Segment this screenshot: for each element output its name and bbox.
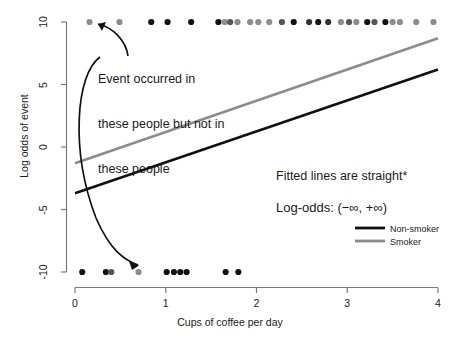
data-point (184, 269, 190, 275)
data-point (116, 19, 122, 25)
y-tick-neg5: -5 (37, 193, 49, 227)
annotation-line-2: these people but not in (98, 117, 225, 132)
data-point (108, 269, 114, 275)
data-point (177, 269, 183, 275)
data-point (279, 19, 285, 25)
data-point (215, 19, 221, 25)
y-tick-5: 5 (37, 68, 49, 102)
data-point (371, 19, 377, 25)
data-point (79, 269, 85, 275)
data-point (164, 19, 170, 25)
data-point (255, 19, 261, 25)
data-point (346, 19, 352, 25)
data-point (164, 269, 170, 275)
x-tick-0: 0 (60, 297, 90, 309)
event-occurred-annotation: Event occurred in these people but not i… (98, 42, 225, 207)
legend-label-smoker: Smoker (390, 237, 421, 247)
y-tick-neg10: -10 (37, 255, 49, 289)
y-tick-0: 0 (37, 130, 49, 164)
data-point (266, 19, 272, 25)
data-point (390, 19, 396, 25)
data-point (103, 269, 109, 275)
legend-label-nonsmoker: Non-smoker (390, 224, 439, 234)
log-odds-range-annotation: Log-odds: (−∞, +∞) (276, 200, 387, 215)
data-point (86, 19, 92, 25)
data-point (291, 19, 297, 25)
data-point (430, 19, 436, 25)
data-point (325, 19, 331, 25)
data-point (338, 19, 344, 25)
x-tick-2: 2 (242, 297, 272, 309)
data-point (223, 269, 229, 275)
data-point (382, 19, 388, 25)
fitted-lines-annotation: Fitted lines are straight* (276, 169, 407, 183)
data-point (315, 19, 321, 25)
annotation-line-3: these people (98, 162, 225, 177)
data-point (413, 19, 419, 25)
data-point (397, 19, 403, 25)
x-tick-4: 4 (423, 297, 453, 309)
x-tick-1: 1 (151, 297, 181, 309)
x-axis-label: Cups of coffee per day (0, 316, 460, 328)
y-tick-10: 10 (37, 5, 49, 39)
data-point (235, 269, 241, 275)
data-point (148, 19, 154, 25)
logistic-regression-chart: Log odds of event 10 5 0 -5 -10 0 1 2 3 … (0, 0, 460, 344)
data-point (171, 269, 177, 275)
x-axis (75, 288, 438, 294)
data-point (306, 19, 312, 25)
data-point (135, 269, 141, 275)
data-point (247, 19, 253, 25)
x-tick-3: 3 (332, 297, 362, 309)
data-point (222, 19, 228, 25)
data-point (227, 19, 233, 25)
data-points-event-not-occurred (79, 269, 241, 275)
data-points-event-occurred (86, 19, 436, 25)
y-axis (61, 22, 67, 272)
y-axis-label: Log odds of event (18, 66, 30, 206)
data-point (188, 19, 194, 25)
data-point (353, 19, 359, 25)
data-point (234, 19, 240, 25)
annotation-line-1: Event occurred in (98, 72, 225, 87)
data-point (364, 19, 370, 25)
